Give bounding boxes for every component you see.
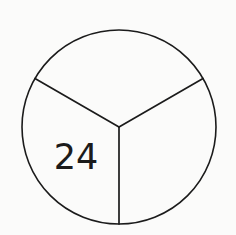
- fraction-circle-figure: 24: [0, 0, 236, 235]
- figure-background: [0, 0, 236, 235]
- circle-diagram-canvas: 24: [0, 0, 236, 235]
- sector-label-24: 24: [54, 137, 99, 177]
